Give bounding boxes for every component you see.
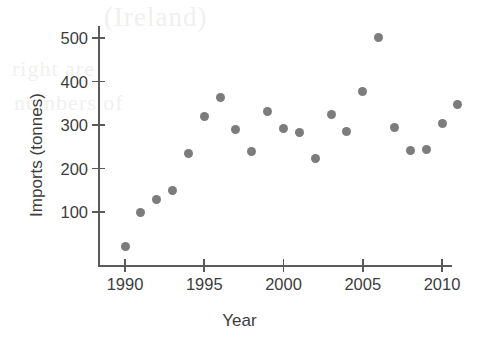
data-point — [327, 110, 336, 119]
data-point — [247, 147, 256, 156]
data-point — [438, 119, 447, 128]
data-point — [342, 127, 351, 136]
data-point — [263, 107, 272, 116]
data-point — [453, 100, 462, 109]
y-axis-title: Imports (tonnes) — [27, 55, 47, 255]
x-axis-title: Year — [0, 311, 479, 331]
data-point — [184, 149, 193, 158]
data-point — [406, 146, 415, 155]
data-point — [279, 124, 288, 133]
data-point — [216, 93, 225, 102]
data-point — [311, 154, 320, 163]
data-point — [121, 242, 130, 251]
scatter-chart-figure: (Ireland) right are numbers of 100200300… — [0, 0, 479, 352]
data-point — [136, 208, 145, 217]
data-point — [390, 123, 399, 132]
data-point — [295, 128, 304, 137]
data-point — [374, 33, 383, 42]
data-point — [152, 195, 161, 204]
data-point-layer — [0, 0, 479, 352]
data-point — [358, 87, 367, 96]
data-point — [422, 145, 431, 154]
data-point — [231, 125, 240, 134]
data-point — [200, 112, 209, 121]
data-point — [168, 186, 177, 195]
